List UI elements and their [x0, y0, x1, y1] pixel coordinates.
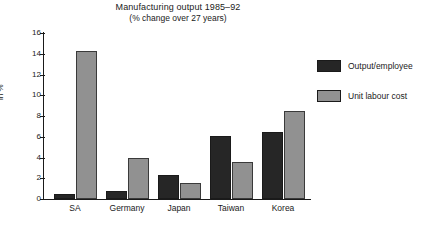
- bar-group: [262, 33, 305, 199]
- y-tick-label: 14: [32, 50, 41, 58]
- legend-swatch-icon-unit-labour-cost: [317, 90, 341, 102]
- chart-subtitle: (% change over 27 years): [0, 13, 356, 24]
- bar-group: [210, 33, 253, 199]
- y-tick-label: 4: [37, 154, 41, 162]
- y-tick-label: 8: [37, 112, 41, 120]
- legend-swatch-icon-output-employee: [317, 60, 341, 72]
- bar: [180, 183, 201, 199]
- x-axis-line: [43, 199, 311, 200]
- bar: [210, 136, 231, 199]
- bar: [76, 51, 97, 199]
- bar: [128, 158, 149, 200]
- bar: [232, 162, 253, 199]
- y-tick-label: 12: [32, 71, 41, 79]
- bar-group: [54, 33, 97, 199]
- chart-title: Manufacturing output 1985–92: [0, 2, 356, 13]
- bar: [54, 194, 75, 199]
- bar-chart: Manufacturing output 1985–92 (% change o…: [0, 0, 424, 240]
- bar: [158, 175, 179, 199]
- bar: [262, 132, 283, 199]
- bar: [106, 191, 127, 199]
- y-tick-label: 0: [37, 195, 41, 203]
- bar-group: [158, 33, 201, 199]
- bar: [284, 111, 305, 199]
- plot-area: [44, 33, 310, 199]
- y-tick-label: 2: [37, 174, 41, 182]
- legend-label-unit-labour-cost: Unit labour cost: [348, 91, 407, 101]
- y-tick-label: 6: [37, 133, 41, 141]
- y-axis-label: in %: [0, 84, 5, 100]
- legend-label-output-employee: Output/employee: [348, 61, 413, 71]
- y-tick-label: 10: [32, 91, 41, 99]
- bar-group: [106, 33, 149, 199]
- y-tick-label: 16: [32, 29, 41, 37]
- x-tick-label: Korea: [248, 203, 318, 213]
